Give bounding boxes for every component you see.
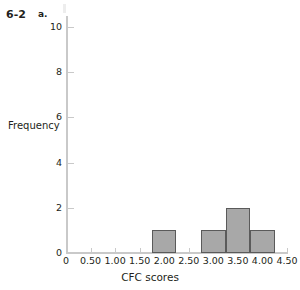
y-axis-line — [66, 16, 68, 254]
y-tick-label-text: 8 — [42, 66, 62, 77]
y-tick-mark — [68, 27, 74, 28]
y-tick-mark — [68, 163, 74, 164]
y-tick-mark — [68, 253, 74, 254]
y-tick-mark — [68, 208, 74, 209]
histogram-chart: 0246810 00.501.001.502.002.503.003.504.0… — [0, 0, 300, 290]
x-tick-mark — [91, 248, 92, 253]
y-tick-label: 10 — [42, 21, 62, 33]
x-axis-title: CFC scores — [0, 271, 300, 283]
y-axis-title: Frequency — [8, 120, 60, 131]
x-tick-label: 4.50 — [272, 255, 300, 266]
y-tick-label-text: 2 — [42, 202, 62, 213]
x-tick-mark — [189, 248, 190, 253]
y-tick-mark — [68, 72, 74, 73]
histogram-bar — [152, 230, 177, 253]
y-tick-label-text: 4 — [42, 157, 62, 168]
scan-artifact — [63, 4, 66, 13]
x-tick-mark — [66, 248, 67, 253]
y-tick-mark — [68, 117, 74, 118]
y-tick-label: 8 — [42, 66, 62, 78]
x-tick-mark — [287, 248, 288, 253]
histogram-bar — [250, 230, 275, 253]
y-tick-label: 2 — [42, 202, 62, 214]
y-tick-label-text: 10 — [42, 21, 62, 32]
histogram-bar — [226, 208, 251, 253]
x-tick-mark — [140, 248, 141, 253]
y-tick-label: 4 — [42, 157, 62, 169]
x-tick-mark — [115, 248, 116, 253]
histogram-bar — [201, 230, 226, 253]
